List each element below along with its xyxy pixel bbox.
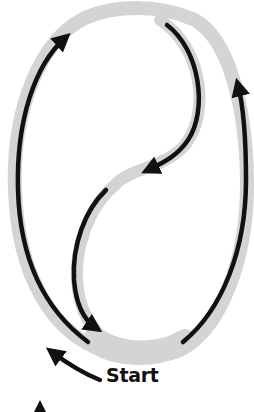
route-diagram: [0, 0, 254, 412]
arrow-start-pointer: [52, 352, 100, 380]
track-bottom-blob: [95, 338, 185, 351]
track-inner-s: [77, 20, 200, 352]
partial-arrowhead-icon: [34, 400, 46, 412]
start-label: Start: [106, 364, 159, 386]
